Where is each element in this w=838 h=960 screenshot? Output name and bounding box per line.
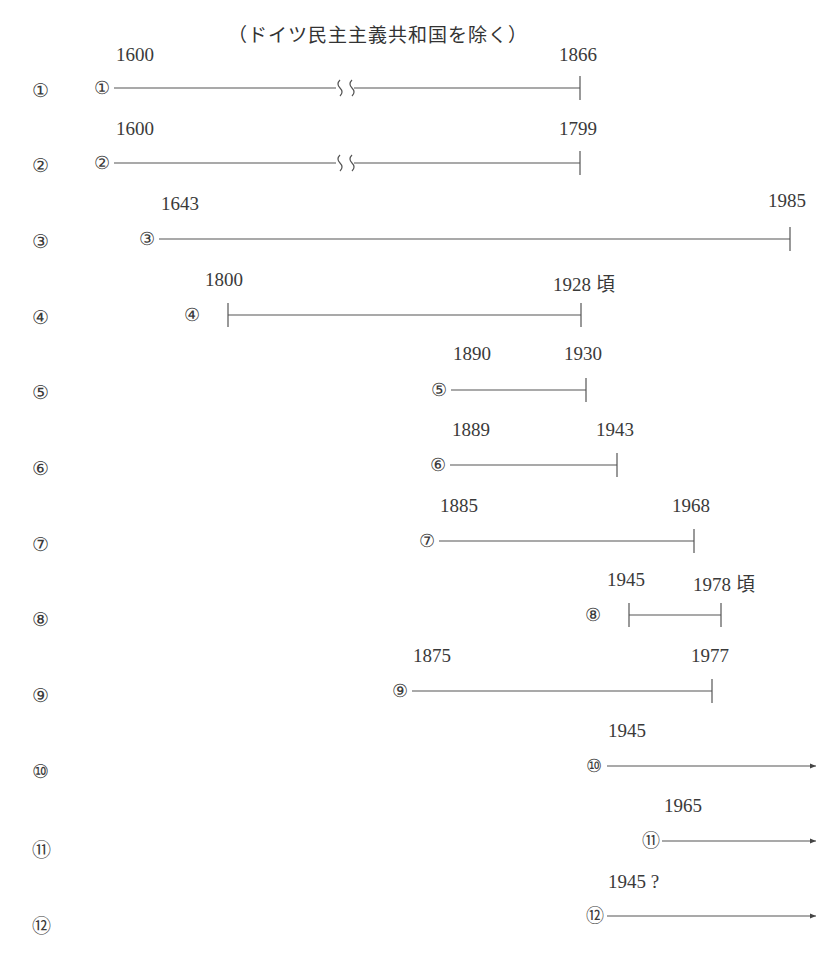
end-year-4: 1928 頃 bbox=[553, 269, 615, 296]
start-year-11: 1965 bbox=[664, 795, 702, 817]
end-year-9: 1977 bbox=[691, 645, 729, 667]
start-year-1: 1600 bbox=[116, 44, 154, 66]
start-year-3: 1643 bbox=[161, 193, 199, 215]
start-year-2: 1600 bbox=[116, 118, 154, 140]
start-year-12: 1945 ? bbox=[608, 871, 659, 893]
start-year-5: 1890 bbox=[453, 343, 491, 365]
end-year-2: 1799 bbox=[559, 118, 597, 140]
end-year-6: 1943 bbox=[596, 419, 634, 441]
timeline-marker-11: ⑪ bbox=[642, 831, 660, 851]
timeline-marker-10: ⑩ bbox=[586, 756, 602, 776]
end-year-8: 1978 頃 bbox=[693, 569, 755, 596]
end-year-7: 1968 bbox=[672, 495, 710, 517]
start-year-7: 1885 bbox=[440, 495, 478, 517]
timeline-lines bbox=[0, 0, 838, 960]
start-year-10: 1945 bbox=[608, 720, 646, 742]
timeline-marker-4: ④ bbox=[184, 305, 200, 325]
end-year-1: 1866 bbox=[559, 44, 597, 66]
start-year-9: 1875 bbox=[413, 645, 451, 667]
timeline-marker-1: ① bbox=[94, 78, 110, 98]
timeline-marker-8: ⑧ bbox=[585, 605, 601, 625]
timeline-marker-3: ③ bbox=[139, 229, 155, 249]
start-year-4: 1800 bbox=[205, 269, 243, 291]
timeline-marker-6: ⑥ bbox=[430, 455, 446, 475]
end-year-5: 1930 bbox=[564, 343, 602, 365]
start-year-8: 1945 bbox=[607, 569, 645, 591]
timeline-marker-2: ② bbox=[94, 153, 110, 173]
timeline-marker-7: ⑦ bbox=[419, 531, 435, 551]
timeline-marker-9: ⑨ bbox=[392, 681, 408, 701]
timeline-marker-5: ⑤ bbox=[431, 380, 447, 400]
start-year-6: 1889 bbox=[452, 419, 490, 441]
end-year-3: 1985 bbox=[768, 190, 806, 212]
timeline-marker-12: ⑫ bbox=[586, 906, 604, 926]
